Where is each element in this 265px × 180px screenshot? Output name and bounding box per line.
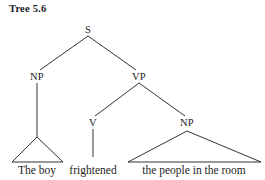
branch-vp-to-np2: [139, 83, 185, 116]
terminal-frightened: frightened: [69, 164, 116, 176]
node-np-object: NP: [180, 117, 194, 128]
node-vp: VP: [132, 71, 146, 82]
branch-lines: [37, 36, 185, 157]
branch-s-to-np1: [40, 36, 88, 70]
constituent-triangles: [12, 131, 261, 162]
node-v: V: [89, 117, 97, 128]
branch-vp-to-v: [95, 83, 139, 116]
node-np-subject: NP: [30, 71, 44, 82]
branch-s-to-vp: [88, 36, 136, 70]
terminal-the-boy: The boy: [18, 164, 56, 176]
terminal-the-people-in-the-room: the people in the room: [142, 164, 245, 176]
tree-diagram-figure: Tree 5.6 S NP VP V NP The boy frightened…: [0, 0, 265, 180]
tree-branch-canvas: [0, 0, 265, 180]
node-s: S: [85, 24, 91, 35]
triangle-left: [12, 137, 63, 162]
triangle-right: [128, 131, 261, 162]
